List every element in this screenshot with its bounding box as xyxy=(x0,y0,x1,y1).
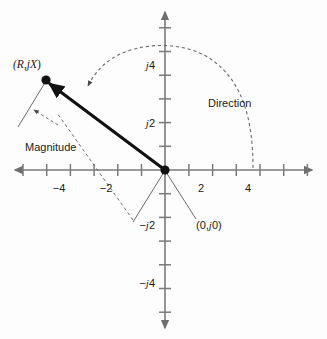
real-tick-label-pos4: 4 xyxy=(245,182,251,194)
imag-negj2-num: 2 xyxy=(149,219,155,231)
imag-tick-label-j2: j2 xyxy=(144,117,155,129)
direction-label: Direction xyxy=(208,97,251,109)
tip-label-close: ) xyxy=(37,58,41,71)
real-tick-label-neg4: −4 xyxy=(53,182,66,194)
origin-label-close: 0) xyxy=(212,219,222,231)
imag-tick-label-negj4: −j4 xyxy=(139,277,155,289)
origin-point-label: (0,j0) xyxy=(196,219,222,231)
imag-j4-num: 4 xyxy=(149,59,155,71)
tip-point-label: (R,jX) xyxy=(13,58,41,71)
imag-j2-num: 2 xyxy=(149,117,155,129)
magnitude-label: Magnitude xyxy=(25,141,76,153)
origin-point-dot xyxy=(160,165,169,174)
imag-tick-label-negj2: −j2 xyxy=(139,219,155,231)
tip-label-r: R xyxy=(16,58,24,70)
imag-tick-label-j4: j4 xyxy=(144,59,155,71)
real-tick-label-pos2: 2 xyxy=(198,182,204,194)
figure-canvas: (R,jX) (0,j0) Magnitude Direction −4 −2 … xyxy=(0,0,327,339)
phasor-tip-dot xyxy=(41,75,50,84)
origin-label-open: (0, xyxy=(196,219,209,231)
imag-negj4-num: 4 xyxy=(149,277,155,289)
real-tick-label-neg2: −2 xyxy=(100,182,113,194)
